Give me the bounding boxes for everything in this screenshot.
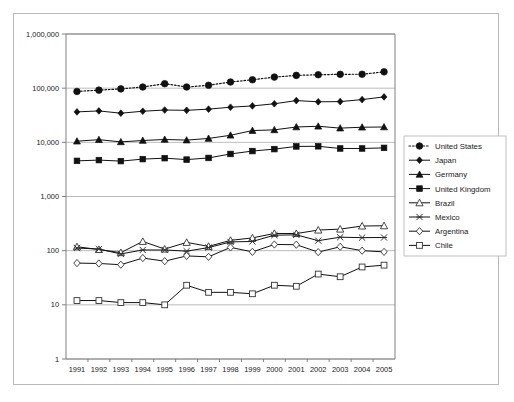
data-point-marker <box>337 71 344 78</box>
legend-label: Brazil <box>435 199 455 208</box>
data-point-marker <box>271 100 277 107</box>
data-point-marker <box>118 110 124 117</box>
data-point-marker <box>96 260 102 267</box>
data-point-marker <box>337 98 343 105</box>
data-point-marker <box>96 298 102 304</box>
data-point-marker <box>184 157 190 163</box>
data-point-marker <box>183 239 190 246</box>
data-point-marker <box>228 289 234 295</box>
data-point-marker <box>161 80 168 87</box>
series-germany <box>74 123 388 145</box>
data-point-marker <box>140 300 146 306</box>
data-point-marker <box>118 86 125 93</box>
x-tick-label: 2000 <box>266 365 282 374</box>
data-point-marker <box>206 155 212 161</box>
data-point-marker <box>73 243 80 250</box>
data-point-marker <box>381 248 387 255</box>
data-point-marker <box>228 151 234 157</box>
x-tick-label: 1996 <box>178 365 194 374</box>
x-tick-label: 1994 <box>135 365 151 374</box>
x-tick-label: 2001 <box>288 365 304 374</box>
data-point-marker <box>96 108 102 115</box>
x-tick-label: 1995 <box>156 365 172 374</box>
legend-item-united-states[interactable]: United States <box>409 142 482 151</box>
legend-label: Chile <box>435 241 453 250</box>
data-point-marker <box>271 241 277 248</box>
data-point-marker <box>74 158 80 164</box>
data-point-marker <box>381 69 388 76</box>
data-point-marker <box>293 72 300 79</box>
series-united-states <box>74 69 388 95</box>
data-point-marker <box>293 97 299 104</box>
x-tick-label: 2004 <box>354 365 370 374</box>
data-point-marker <box>315 98 321 105</box>
x-tick-label: 2003 <box>332 365 348 374</box>
y-tick-label: 1,000,000 <box>26 30 59 39</box>
data-point-marker <box>162 302 168 308</box>
series-united-kingdom <box>74 143 387 163</box>
data-point-marker <box>417 186 423 192</box>
y-axis-tick-labels: 1101001,00010,000100,0001,000,000 <box>26 30 59 364</box>
data-point-marker <box>293 241 299 248</box>
data-point-marker <box>184 282 190 288</box>
data-point-marker <box>118 261 124 268</box>
data-point-marker <box>250 103 256 110</box>
y-tick-label: 100 <box>47 246 59 255</box>
data-point-marker <box>272 146 278 152</box>
data-point-marker <box>315 143 321 149</box>
legend-label: Germany <box>435 170 467 179</box>
x-tick-label: 1997 <box>200 365 216 374</box>
y-tick-label: 100,000 <box>32 84 59 93</box>
data-point-marker <box>205 82 212 89</box>
data-point-marker <box>162 107 168 114</box>
y-tick-label: 10,000 <box>36 138 59 147</box>
x-axis-tick-labels: 1991199219931994199519961997199819992000… <box>69 365 393 374</box>
legend-label: Mexico <box>435 213 460 222</box>
data-point-marker <box>294 144 300 150</box>
legend-label: United States <box>435 142 482 151</box>
data-point-marker <box>96 87 103 94</box>
data-point-marker <box>359 264 365 270</box>
data-point-marker <box>315 71 322 78</box>
y-tick-label: 1,000 <box>41 192 60 201</box>
data-point-marker <box>249 76 256 83</box>
series-japan <box>74 94 387 117</box>
data-series-layer <box>73 69 387 308</box>
data-point-marker <box>381 145 387 151</box>
line-chart: 1101001,00010,000100,0001,000,000 199119… <box>0 0 514 402</box>
data-point-marker <box>315 238 321 244</box>
data-point-marker <box>118 300 124 306</box>
data-point-marker <box>228 104 234 111</box>
data-point-marker <box>249 248 255 255</box>
data-point-marker <box>359 146 365 152</box>
data-point-marker <box>359 71 366 78</box>
data-point-marker <box>293 283 299 289</box>
y-tick-label: 1 <box>55 355 59 364</box>
data-point-marker <box>140 254 146 261</box>
x-tick-label: 2005 <box>376 365 392 374</box>
data-point-marker <box>359 96 365 103</box>
data-point-marker <box>162 258 168 265</box>
chart-legend: United StatesJapanGermanyUnited KingdomB… <box>404 136 506 256</box>
data-point-marker <box>359 247 365 254</box>
data-point-marker <box>96 157 102 163</box>
data-point-marker <box>184 107 190 114</box>
data-point-marker <box>227 79 234 86</box>
x-tick-label: 1993 <box>113 365 129 374</box>
x-tick-label: 1991 <box>69 365 85 374</box>
data-point-marker <box>140 247 146 253</box>
data-point-marker <box>140 108 146 115</box>
data-point-marker <box>315 248 321 255</box>
y-tick-label: 10 <box>51 300 59 309</box>
data-point-marker <box>337 234 343 240</box>
legend-label: Japan <box>435 156 456 165</box>
data-point-marker <box>206 106 212 113</box>
data-point-marker <box>271 74 278 81</box>
x-tick-label: 1992 <box>91 365 107 374</box>
data-point-marker <box>381 234 387 240</box>
data-point-marker <box>359 235 365 241</box>
data-point-marker <box>139 84 146 91</box>
data-point-marker <box>315 271 321 277</box>
data-point-marker <box>140 156 146 162</box>
data-point-marker <box>183 84 190 91</box>
